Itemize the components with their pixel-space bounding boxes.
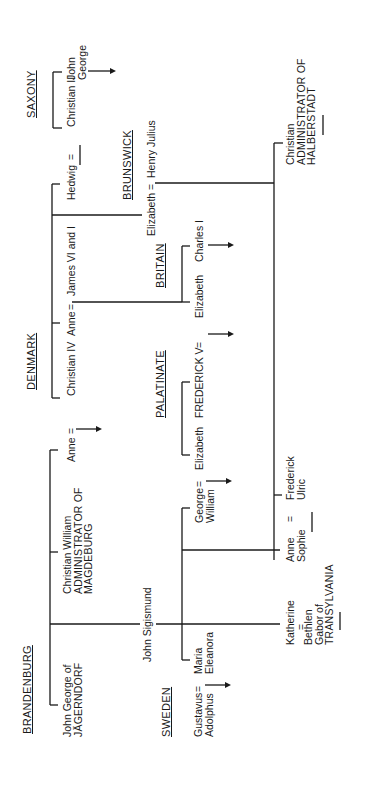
person-henry-julius: Henry Julius (146, 120, 157, 178)
person-james-vi-and-i: James VI and I (66, 226, 77, 296)
person-christian-halberstadt: ChristianADMINISTRATOR OFHALBERSTADT (285, 58, 317, 165)
person-charles-i: Charles I (194, 220, 205, 262)
person-bethlen-gabor: BethlenGabor ofTRANSYLVANIA (303, 564, 335, 645)
person-elizabeth-palatinate: Elizabeth (194, 427, 205, 470)
marriage-sign: = (66, 428, 77, 434)
marriage-sign: = (193, 686, 204, 692)
person-christian-iv: Christian IV (66, 342, 77, 396)
marriage-sign: = (66, 154, 77, 160)
person-john-sigismund: John Sigismund (142, 587, 153, 662)
person-gustavus-adolphus: GustavusAdolphus (193, 693, 214, 737)
person-frederick-ulric: FrederickUlric (285, 456, 306, 500)
house-label-brunswick: BRUNSWICK (122, 130, 133, 200)
person-christian-william: Christian WilliamADMINISTRATOR OFMAGDEBU… (62, 487, 94, 594)
marriage-sign: = (194, 481, 205, 487)
marriage-sign: = (146, 184, 157, 190)
person-elizabeth-britain: Elizabeth (194, 275, 205, 318)
person-katherine: Katherine (285, 600, 296, 645)
person-george-william: GeorgeWilliam (194, 488, 215, 523)
person-elizabeth-brunswick: Elizabeth (146, 193, 157, 236)
person-anne-sophie: AnneSophie (285, 529, 306, 562)
person-frederick-v: FREDERICK V (194, 347, 205, 418)
house-label-palatinate: PALATINATE (155, 350, 166, 418)
person-anne-brandenburg: Anne (66, 437, 77, 462)
person-john-george-jagerndorf: John George ofJÄGERNDORF (62, 663, 83, 737)
house-label-saxony: SAXONY (26, 70, 37, 118)
house-label-sweden: SWEDEN (161, 687, 172, 737)
marriage-sign: = (66, 304, 77, 310)
marriage-sign: = (285, 516, 296, 522)
person-maria-eleanora: MariaEleanora (193, 632, 214, 674)
person-hedwig: Hedwig (66, 165, 77, 200)
house-label-britain: BRITAIN (155, 243, 166, 288)
person-john-george-saxony: JohnGeorge (66, 45, 87, 80)
house-label-denmark: DENMARK (26, 333, 37, 390)
person-christian-ii: Christian II (66, 77, 77, 127)
person-anne-denmark: Anne (66, 311, 77, 336)
connector-lines (0, 0, 378, 794)
house-label-brandenburg: BRANDENBURG (22, 645, 33, 734)
